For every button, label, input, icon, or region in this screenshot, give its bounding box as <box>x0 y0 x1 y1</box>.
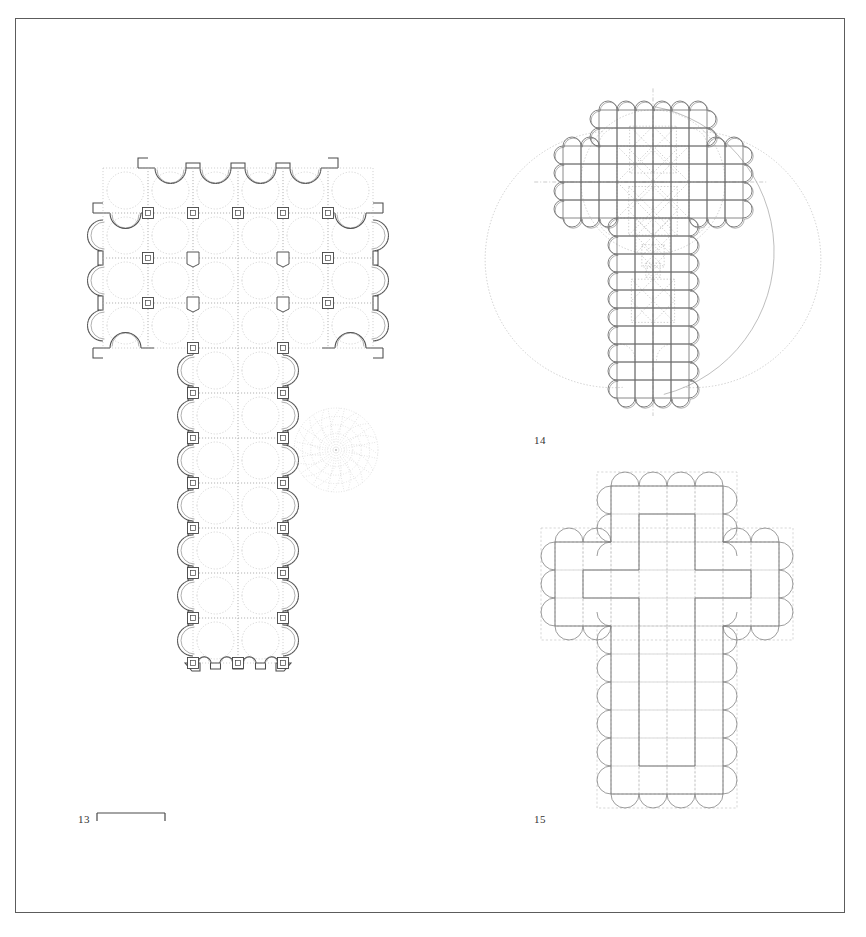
figure-13-pier-core <box>236 661 241 666</box>
figure-13-pier-core <box>281 346 286 351</box>
figure-15-drawing <box>515 470 815 815</box>
figure-15-grid <box>541 472 793 808</box>
figure-13-pier-core <box>236 211 241 216</box>
figure-13-pier-core <box>191 616 196 621</box>
figure-13-rose-spoke <box>336 450 344 491</box>
figure-13-rose-spoke <box>301 450 336 473</box>
figure-14-label: 14 <box>534 434 546 446</box>
figure-13-rose-spoke <box>295 450 336 458</box>
figure-14-drawing <box>515 88 815 438</box>
figure-13-pier-core <box>146 211 151 216</box>
figure-13-rose-spoke <box>313 450 336 485</box>
figure-13-pier-core <box>191 661 196 666</box>
figure-13-pier-core <box>281 616 286 621</box>
figure-13-rose-spoke <box>328 450 336 491</box>
plate-page: 13 14 15 <box>0 0 866 937</box>
figure-13-pier-core <box>281 436 286 441</box>
figure-13-rose-spoke <box>336 450 359 485</box>
figure-13-pier-core <box>191 481 196 486</box>
figure-13-pier-core <box>326 256 331 261</box>
figure-13-rose-spoke <box>336 427 371 450</box>
figure-13-pier-core <box>281 481 286 486</box>
figure-14-grid-lines <box>563 110 743 398</box>
figure-13-rose-spoke <box>336 409 344 450</box>
figure-13-pier-core <box>326 301 331 306</box>
figure-13-rose-spoke <box>295 442 336 450</box>
figure-13-pier-core <box>281 526 286 531</box>
figure-13-pier-core <box>146 256 151 261</box>
figure-13-rose-spoke <box>328 409 336 450</box>
figure-13-pier-core <box>191 436 196 441</box>
figure-13-crossing-pier <box>277 297 289 312</box>
figure-14 <box>515 88 815 438</box>
figure-13-pier-core <box>281 391 286 396</box>
figure-13-pier-core <box>281 571 286 576</box>
figure-15 <box>515 470 815 815</box>
figure-15-label: 15 <box>534 813 546 825</box>
figure-13-pier-core <box>146 301 151 306</box>
figure-13-pier-core <box>326 211 331 216</box>
figure-13-pier-core <box>191 346 196 351</box>
figure-13-rose-spoke <box>336 450 377 458</box>
figure-13-vault-ribs <box>88 168 389 663</box>
figure-13-pier-core <box>191 526 196 531</box>
figure-13-rose-spoke <box>336 415 359 450</box>
figure-13-pier-core <box>191 391 196 396</box>
figure-13-rose-spoke <box>313 415 336 450</box>
figure-13-crossing-rose <box>294 408 378 492</box>
figure-13-rose-spoke <box>336 442 377 450</box>
figure-13-pier-core <box>191 571 196 576</box>
figure-14-grid <box>563 110 743 398</box>
figure-13-crossing-pier <box>187 252 199 267</box>
figure-13-pier-core <box>281 211 286 216</box>
figure-13 <box>55 120 495 820</box>
figure-13-vault-rib-lines <box>103 168 373 663</box>
figure-13-crossing-pier <box>187 297 199 312</box>
figure-13-pier-core <box>281 661 286 666</box>
figure-13-pier-core <box>191 211 196 216</box>
figure-13-crossing-pier <box>277 252 289 267</box>
figure-13-drawing <box>55 120 495 820</box>
figure-13-scale-bar <box>95 810 175 826</box>
figure-13-rose-spoke <box>336 450 371 473</box>
figure-13-rose-spoke <box>301 427 336 450</box>
figure-13-label: 13 <box>78 813 90 825</box>
